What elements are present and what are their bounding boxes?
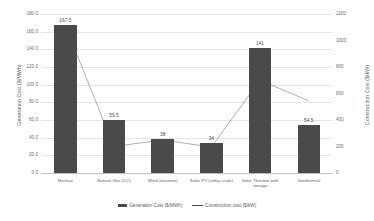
- bar-value-label: 38: [160, 133, 165, 138]
- bar-slot: 167.5: [41, 14, 90, 173]
- y-axis-left-tick-label: 80.0: [29, 100, 38, 105]
- plot-area: 0.020.040.060.080.0100.0120.0140.0160.01…: [41, 14, 333, 174]
- y-axis-right-tick-label: 200: [336, 144, 344, 149]
- y-axis-left-tick-label: 180.0: [27, 12, 39, 17]
- bar-slot: 54.5: [284, 14, 333, 173]
- y-axis-left-tick-label: 20.0: [29, 153, 38, 158]
- legend-item-label: Construction cost ($/kW): [205, 203, 256, 208]
- bar-value-label: 34: [209, 137, 214, 142]
- bar-slot: 141: [236, 14, 285, 173]
- y-axis-left-tick-label: 120.0: [27, 65, 39, 70]
- line-swatch-icon: [192, 205, 203, 206]
- bar[interactable]: 38: [151, 139, 173, 173]
- bar[interactable]: 34: [200, 143, 222, 173]
- y-axis-left-tick-label: 140.0: [27, 47, 39, 52]
- bar[interactable]: 59.5: [103, 120, 125, 173]
- legend-item-label: Generation Cost ($/MWh): [129, 203, 182, 208]
- legend-item[interactable]: Construction cost ($/kW): [192, 203, 257, 208]
- x-axis-category-label: Solar PV (utility-scale): [187, 178, 236, 188]
- bar[interactable]: 167.5: [54, 25, 76, 173]
- bar-swatch-icon: [118, 204, 127, 207]
- y-axis-right-tick-label: 400: [336, 118, 344, 123]
- y-axis-left-tick-label: 0.0: [32, 171, 38, 176]
- bar-series-generation-cost: 167.559.5383414154.5: [41, 14, 333, 173]
- y-axis-left-title: Generation Cost ($/MWh): [16, 40, 22, 150]
- x-axis-category-label: Nuclear: [41, 178, 90, 188]
- bar-value-label: 54.5: [304, 119, 313, 124]
- y-axis-left-tick-label: 100.0: [27, 82, 39, 87]
- bar-value-label: 167.5: [59, 19, 71, 24]
- bar-slot: 59.5: [90, 14, 139, 173]
- chart-container: Generation Cost ($/MWh) Construction Cos…: [0, 0, 374, 221]
- bar[interactable]: 141: [249, 48, 271, 173]
- x-axis-category-label: Wind (onshore): [138, 178, 187, 188]
- y-axis-left-tick-label: 40.0: [29, 135, 38, 140]
- y-axis-right-tick-label: 1000: [336, 38, 346, 43]
- y-axis-right-tick-label: 0: [336, 171, 339, 176]
- bar-slot: 34: [187, 14, 236, 173]
- legend-item[interactable]: Generation Cost ($/MWh): [118, 203, 183, 208]
- y-axis-right-title: Construction Cost ($/kW): [364, 40, 370, 150]
- y-axis-left-tick-label: 160.0: [27, 29, 39, 34]
- y-axis-right-tick-label: 800: [336, 65, 344, 70]
- y-axis-left-tick-label: 60.0: [29, 118, 38, 123]
- bar[interactable]: 54.5: [298, 125, 320, 173]
- chart-legend: Generation Cost ($/MWh)Construction cost…: [0, 203, 374, 208]
- y-axis-right-tick-label: 600: [336, 91, 344, 96]
- y-axis-right-tick-label: 1200: [336, 12, 346, 17]
- bar-value-label: 141: [256, 42, 264, 47]
- x-axis-category-label: Natural Gas (CC): [90, 178, 139, 188]
- bar-slot: 38: [138, 14, 187, 173]
- x-axis-category-labels: NuclearNatural Gas (CC)Wind (onshore)Sol…: [41, 178, 333, 188]
- x-axis-category-label: Geothermal: [284, 178, 333, 188]
- bar-value-label: 59.5: [109, 114, 118, 119]
- x-axis-category-label: Solar Thermal with storage: [236, 178, 285, 188]
